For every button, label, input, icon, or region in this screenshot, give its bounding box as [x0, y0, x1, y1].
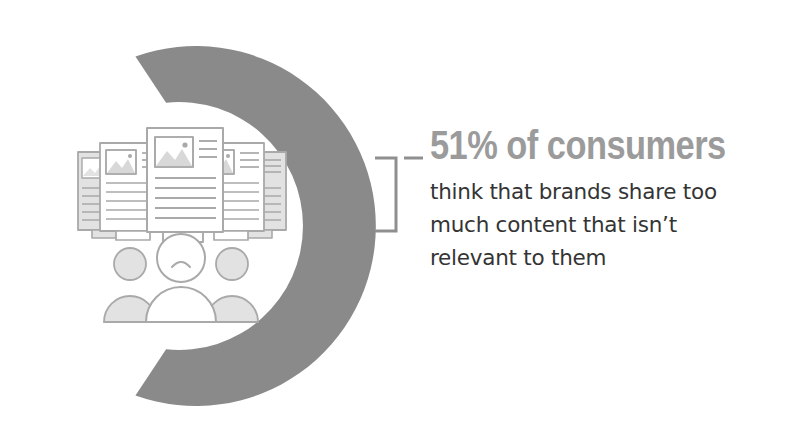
callout-body-line-3: relevant to them — [430, 241, 782, 274]
callout-body-line-1: think that brands share too — [430, 175, 782, 208]
callout-body: think that brands share too much content… — [430, 175, 782, 274]
people-group — [104, 234, 258, 322]
document-stack — [78, 128, 286, 242]
person-center — [146, 234, 216, 322]
infographic-canvas: 51% of consumers think that brands share… — [0, 0, 801, 435]
callout-headline: 51% of consumers — [430, 124, 733, 166]
leader-line-bracket — [375, 158, 423, 231]
callout-text-block: 51% of consumers think that brands share… — [430, 124, 782, 274]
callout-body-line-2: much content that isn’t — [430, 208, 782, 241]
document-card-front-center — [147, 128, 223, 242]
